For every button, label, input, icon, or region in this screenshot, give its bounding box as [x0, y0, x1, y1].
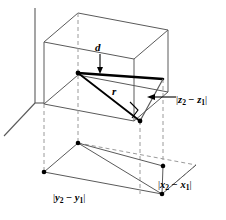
- y-operator: −: [66, 192, 72, 203]
- label-r: r: [112, 86, 116, 97]
- x-sub-a: 2: [165, 183, 169, 192]
- segment-r: [78, 73, 140, 121]
- label-z-difference: |z2 − z1|: [176, 95, 207, 106]
- y-sub-a: 2: [60, 196, 64, 205]
- vertex-d-left: [76, 71, 81, 76]
- base-vertex-front: [160, 192, 165, 197]
- label-y-difference: |y2 − y1|: [53, 193, 85, 204]
- distance-formula-figure: d r |z2 − z1| |x2 − x1| |y2 − y1|: [0, 0, 226, 220]
- x-operator: −: [172, 179, 178, 190]
- arrow-d-pointer: [97, 54, 103, 74]
- base-diagonal-right: [78, 143, 163, 166]
- vertex-r-foot: [138, 119, 143, 124]
- segment-d: [78, 73, 163, 79]
- label-x-difference: |x2 − x1|: [158, 180, 192, 191]
- axis-diagonal: [4, 103, 35, 136]
- z-sub-a: 2: [182, 98, 186, 107]
- figure-canvas: [0, 0, 226, 220]
- base-vertex-right: [161, 164, 166, 169]
- box-midplane-left: [44, 75, 78, 104]
- label-d: d: [95, 42, 101, 53]
- y-sub-b: 1: [79, 196, 83, 205]
- x-sub-b: 1: [186, 183, 190, 192]
- base-edge-left: [44, 143, 78, 172]
- x-var-b: x: [180, 179, 185, 190]
- box-top-face: [44, 13, 168, 59]
- z-operator: −: [189, 94, 195, 105]
- segment-z-difference: [140, 79, 163, 121]
- z-bar-close: |: [205, 94, 207, 105]
- base-vertex-back: [76, 141, 81, 146]
- z-sub-b: 1: [201, 98, 205, 107]
- base-vertex-left: [42, 170, 47, 175]
- y-bar-close: |: [83, 192, 85, 203]
- coordinate-axes: [4, 8, 44, 136]
- x-bar-close: |: [189, 179, 191, 190]
